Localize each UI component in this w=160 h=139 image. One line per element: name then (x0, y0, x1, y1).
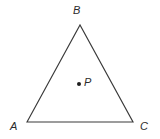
vertex-label-a: A (10, 121, 17, 132)
point-label-p: P (84, 77, 91, 88)
vertex-label-c: C (140, 121, 148, 132)
geometry-figure: B A C P (0, 0, 160, 139)
triangle-diagram-svg (0, 0, 160, 139)
point-p-marker (77, 82, 81, 86)
vertex-label-b: B (73, 5, 80, 16)
triangle-abc-outline (27, 25, 133, 122)
